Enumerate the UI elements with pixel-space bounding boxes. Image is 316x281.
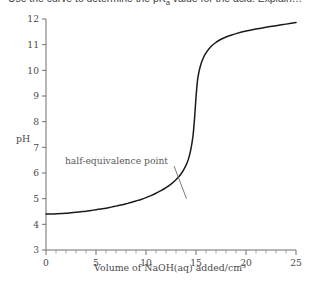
y-tick-label: 10 bbox=[27, 65, 39, 76]
y-tick-label: 4 bbox=[33, 219, 39, 230]
question-text-after: value for the acid. Explain… bbox=[170, 0, 302, 4]
data-series bbox=[46, 23, 296, 214]
y-tick-label: 6 bbox=[33, 167, 39, 178]
half-equivalence-point-leader-line bbox=[174, 166, 187, 199]
x-tick-label: 0 bbox=[43, 257, 49, 268]
chart-page: Use the curve to determine the pKa value… bbox=[0, 0, 316, 281]
y-tick-label: 3 bbox=[33, 244, 39, 255]
titration-chart: 3456789101112 0510152025 pH Volume of Na… bbox=[0, 10, 316, 281]
titration-curve bbox=[46, 23, 296, 214]
y-tick-label: 9 bbox=[33, 90, 39, 101]
y-tick-label: 7 bbox=[33, 142, 39, 153]
axes bbox=[46, 19, 296, 250]
question-text-before: Use the curve to determine the pK bbox=[8, 0, 166, 4]
y-tick-label: 5 bbox=[33, 193, 39, 204]
y-tick-label: 12 bbox=[27, 13, 39, 24]
y-axis-ticks bbox=[42, 19, 46, 250]
chart-annotations: half-equivalence point bbox=[65, 155, 187, 199]
chart-svg: 3456789101112 0510152025 pH Volume of Na… bbox=[0, 10, 316, 281]
question-prompt: Use the curve to determine the pKa value… bbox=[8, 0, 316, 9]
x-axis-title: Volume of NaOH(aq) added/cm³ bbox=[93, 262, 246, 273]
y-axis-title: pH bbox=[16, 133, 30, 144]
half-equivalence-point-label: half-equivalence point bbox=[65, 155, 168, 166]
y-tick-label: 8 bbox=[33, 116, 39, 127]
x-tick-label: 25 bbox=[290, 257, 302, 268]
y-tick-label: 11 bbox=[27, 39, 39, 50]
x-axis-ticks bbox=[46, 250, 296, 255]
